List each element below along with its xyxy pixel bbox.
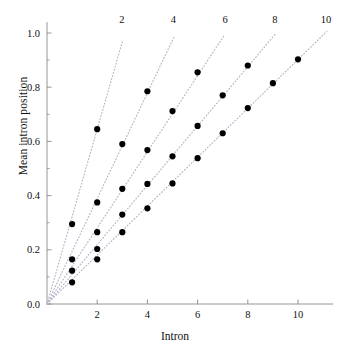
series-label-6: 6 bbox=[223, 14, 228, 25]
data-point bbox=[94, 126, 100, 132]
x-tick-label: 8 bbox=[245, 309, 250, 320]
trend-line-6 bbox=[47, 36, 224, 304]
data-point bbox=[94, 256, 100, 262]
series-label-2: 2 bbox=[119, 14, 124, 25]
series-label-10: 10 bbox=[321, 14, 332, 25]
trend-line-8 bbox=[47, 34, 275, 304]
data-point bbox=[144, 181, 150, 187]
trend-line-4 bbox=[47, 38, 174, 304]
data-point bbox=[169, 180, 175, 186]
data-point bbox=[245, 62, 251, 68]
trend-line-10 bbox=[47, 31, 327, 304]
data-point bbox=[169, 108, 175, 114]
data-point bbox=[69, 256, 75, 262]
data-point bbox=[69, 221, 75, 227]
x-tick-label: 4 bbox=[145, 309, 151, 320]
data-point bbox=[94, 246, 100, 252]
data-point bbox=[119, 229, 125, 235]
data-point bbox=[295, 56, 301, 62]
x-tick-label: 6 bbox=[195, 309, 200, 320]
data-point bbox=[119, 186, 125, 192]
data-point bbox=[119, 141, 125, 147]
data-point bbox=[94, 199, 100, 205]
data-point bbox=[69, 279, 75, 285]
y-tick-label: 0.0 bbox=[27, 299, 40, 310]
y-tick-label: 0.2 bbox=[27, 244, 40, 255]
data-point bbox=[144, 205, 150, 211]
chart-figure: 0.00.20.40.60.81.0246810246810 Mean intr… bbox=[0, 0, 350, 352]
data-point bbox=[119, 211, 125, 217]
series-label-4: 4 bbox=[171, 14, 177, 25]
data-point bbox=[169, 153, 175, 159]
y-axis-title: Mean intron position bbox=[17, 31, 29, 221]
x-tick-label: 2 bbox=[95, 309, 100, 320]
scatter-plot-canvas: 0.00.20.40.60.81.0246810246810 bbox=[0, 0, 350, 352]
data-point bbox=[245, 105, 251, 111]
data-point bbox=[94, 229, 100, 235]
data-point bbox=[195, 123, 201, 129]
data-point bbox=[220, 130, 226, 136]
data-point bbox=[195, 69, 201, 75]
series-label-8: 8 bbox=[272, 14, 277, 25]
x-tick-label: 10 bbox=[293, 309, 304, 320]
data-point bbox=[144, 88, 150, 94]
data-point bbox=[69, 268, 75, 274]
x-axis-title: Intron bbox=[0, 330, 350, 342]
data-point bbox=[144, 147, 150, 153]
data-point bbox=[220, 92, 226, 98]
data-point bbox=[195, 155, 201, 161]
trend-line-2 bbox=[47, 42, 122, 304]
data-point bbox=[270, 80, 276, 86]
